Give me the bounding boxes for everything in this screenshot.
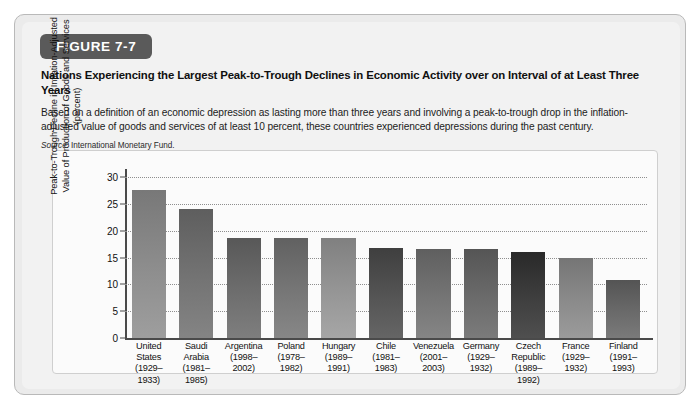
bar-slot [600, 177, 647, 338]
x-axis-label: Finland(1991–1993) [600, 341, 647, 386]
figure-inner-panel: FIGURE 7-7 Nations Experiencing the Larg… [22, 22, 680, 389]
x-axis-label: Venezuela(2001–2003) [410, 341, 457, 386]
y-axis-title: Peak-to-Trough Decline in Inflation-Adju… [49, 11, 95, 201]
figure-container: FIGURE 7-7 Nations Experiencing the Larg… [14, 14, 686, 395]
figure-source: Source: International Monetary Fund. [41, 141, 663, 150]
x-axis-line [125, 338, 653, 340]
x-axis-label: UnitedStates(1929–1933) [125, 341, 172, 386]
page-title: Nations Experiencing the Largest Peak-to… [41, 68, 663, 99]
x-axis-label: CzechRepublic(1989–1992) [505, 341, 552, 386]
x-axis-label: Germany(1929–1932) [457, 341, 504, 386]
bar[interactable] [132, 190, 166, 338]
bar[interactable] [179, 209, 213, 338]
x-axis-label: Chile(1981–1983) [362, 341, 409, 386]
x-axis-labels: UnitedStates(1929–1933)SaudiArabia(1981–… [125, 341, 647, 386]
bar-slot [457, 177, 504, 338]
bar-slot [267, 177, 314, 338]
chart-panel: Peak-to-Trough Decline in Inflation-Adju… [52, 150, 658, 374]
x-axis-label: SaudiArabia(1981–1985) [172, 341, 219, 386]
bar-slot [362, 177, 409, 338]
figure-subtitle: Based on a definition of an economic dep… [41, 106, 663, 134]
bar-series [125, 177, 647, 338]
bar[interactable] [416, 249, 450, 338]
bar-slot [552, 177, 599, 338]
x-axis-label: Poland(1978–1982) [267, 341, 314, 386]
bar[interactable] [274, 238, 308, 338]
bar-slot [172, 177, 219, 338]
bar-slot [505, 177, 552, 338]
bar[interactable] [321, 238, 355, 338]
bar-slot [410, 177, 457, 338]
bar[interactable] [511, 252, 545, 338]
bar[interactable] [606, 280, 640, 338]
bar[interactable] [559, 258, 593, 338]
bar-slot [220, 177, 267, 338]
bar-slot [125, 177, 172, 338]
x-axis-label: Argentina(1998–2002) [220, 341, 267, 386]
bar[interactable] [369, 248, 403, 338]
bar[interactable] [464, 249, 498, 338]
figure-text-block: Nations Experiencing the Largest Peak-to… [41, 68, 663, 150]
bar-slot [315, 177, 362, 338]
plot-area: 051015202530 [125, 177, 647, 338]
x-axis-label: Hungary(1989–1991) [315, 341, 362, 386]
x-axis-label: France(1929–1932) [552, 341, 599, 386]
bar[interactable] [227, 238, 261, 338]
